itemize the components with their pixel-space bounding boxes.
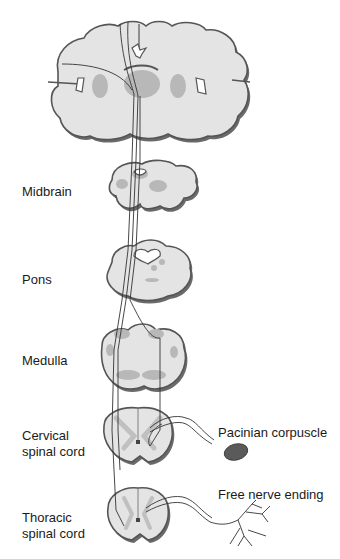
- label-medulla: Medulla: [22, 353, 68, 369]
- midbrain-section: [109, 160, 199, 211]
- cortex-section: [48, 22, 250, 143]
- label-pacinian-corpuscle: Pacinian corpuscle: [218, 425, 327, 441]
- label-cervical-line1: Cervical: [22, 428, 85, 444]
- label-thoracic-line2: spinal cord: [22, 526, 85, 542]
- label-cervical-spinal-cord: Cervical spinal cord: [22, 428, 85, 460]
- label-thoracic-line1: Thoracic: [22, 510, 85, 526]
- label-thoracic-spinal-cord: Thoracic spinal cord: [22, 510, 85, 542]
- cervical-cord-section: [104, 408, 175, 465]
- label-pons: Pons: [22, 272, 52, 288]
- pons-section: [107, 240, 193, 304]
- thoracic-cord-section: [108, 488, 171, 543]
- label-cervical-line2: spinal cord: [22, 444, 85, 460]
- label-free-nerve-ending: Free nerve ending: [218, 487, 324, 503]
- medulla-section: [102, 324, 188, 392]
- label-midbrain: Midbrain: [22, 184, 72, 200]
- pacinian-corpuscle: [222, 441, 249, 463]
- free-nerve-ending: [210, 500, 270, 546]
